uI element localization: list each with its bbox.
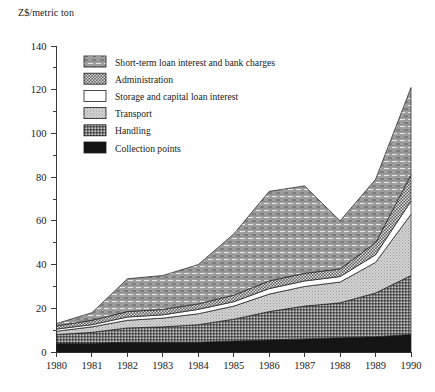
legend-label: Storage and capital loan interest (115, 91, 238, 102)
x-tick-label: 1985 (223, 360, 244, 371)
chart-canvas: 020406080100120140 198019811982198319841… (0, 0, 435, 392)
chart-legend: Short-term loan interest and bank charge… (84, 56, 275, 154)
x-tick-label: 1981 (81, 360, 102, 371)
y-tick-label: 0 (41, 347, 46, 358)
y-axis-ticks: 020406080100120140 (31, 41, 57, 358)
y-tick-label: 60 (36, 215, 47, 226)
x-tick-label: 1990 (401, 360, 422, 371)
y-tick-label: 140 (31, 41, 47, 52)
legend-label: Collection points (115, 143, 181, 154)
x-tick-label: 1984 (188, 360, 210, 371)
legend-swatch (84, 125, 106, 136)
y-tick-label: 120 (31, 84, 47, 95)
y-tick-label: 20 (36, 303, 47, 314)
y-tick-label: 100 (31, 128, 47, 139)
y-axis-unit-label: Z$/metric ton (18, 7, 74, 18)
x-tick-label: 1980 (46, 360, 67, 371)
x-axis-ticks: 1980198119821983198419851986198719881989… (46, 352, 422, 371)
legend-swatch (84, 108, 106, 119)
y-tick-label: 80 (36, 172, 47, 183)
stacked-area-chart: Z$/metric ton (0, 0, 435, 392)
y-tick-label: 40 (36, 259, 47, 270)
legend-label: Handling (115, 125, 151, 136)
legend-swatch (84, 90, 106, 101)
x-tick-label: 1989 (365, 360, 386, 371)
x-tick-label: 1982 (117, 360, 138, 371)
legend-label: Administration (115, 74, 173, 85)
legend-swatch (84, 142, 106, 153)
legend-swatch (84, 56, 106, 67)
legend-swatch (84, 73, 106, 84)
x-tick-label: 1988 (330, 360, 351, 371)
legend-label: Transport (115, 108, 152, 119)
stacked-area-bands (57, 88, 412, 352)
x-tick-label: 1983 (152, 360, 173, 371)
x-tick-label: 1987 (294, 360, 315, 371)
legend-label: Short-term loan interest and bank charge… (115, 57, 275, 68)
x-tick-label: 1986 (259, 360, 280, 371)
